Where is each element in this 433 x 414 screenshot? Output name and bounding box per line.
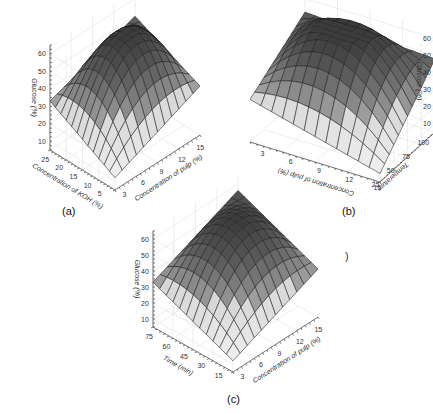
surface-plot-a-canvas: 1020304050603691215510152025Glucose (%)C… (0, 0, 215, 210)
svg-text:40: 40 (141, 268, 149, 275)
svg-text:50: 50 (38, 68, 46, 75)
svg-text:50: 50 (423, 52, 431, 59)
svg-text:30: 30 (423, 86, 431, 93)
svg-text:15: 15 (314, 326, 322, 333)
svg-text:10: 10 (141, 316, 149, 323)
svg-text:75: 75 (402, 153, 410, 160)
svg-text:30: 30 (197, 362, 205, 369)
svg-text:75: 75 (145, 333, 153, 340)
surface-plot-a: 1020304050603691215510152025Glucose (%)C… (0, 0, 215, 210)
surface-plot-b: 1020304050601512963255075100Glucose (%)C… (215, 0, 433, 210)
svg-text:10: 10 (38, 138, 46, 145)
svg-text:20: 20 (423, 103, 431, 110)
svg-text:60: 60 (38, 50, 46, 57)
svg-text:30: 30 (141, 284, 149, 291)
y-axis-label: Time (min) (161, 354, 194, 377)
x-axis-label: Concentration of pulp (%) (133, 153, 204, 203)
surface-plot-b-canvas: 1020304050601512963255075100Glucose (%)C… (215, 0, 433, 210)
svg-text:45: 45 (180, 353, 188, 360)
svg-text:12: 12 (345, 176, 353, 183)
svg-text:15: 15 (215, 372, 223, 379)
svg-text:20: 20 (141, 300, 149, 307)
caption-b: (b) (342, 205, 355, 217)
svg-text:25: 25 (41, 156, 49, 163)
caption-a: (a) (62, 205, 75, 217)
stray-paren: ) (345, 250, 349, 262)
svg-text:12: 12 (296, 338, 304, 345)
surface-plot-c-canvas: 10203040506036912151530456075Glucose (%)… (120, 210, 340, 400)
svg-text:10: 10 (423, 120, 431, 127)
svg-text:20: 20 (38, 120, 46, 127)
z-axis-label: Glucose (%) (133, 260, 141, 299)
surface-plot-c: 10203040506036912151530456075Glucose (%)… (120, 210, 340, 400)
x-axis-label: Concentration of pulp (%) (251, 335, 322, 385)
svg-text:60: 60 (141, 236, 149, 243)
svg-text:12: 12 (178, 156, 186, 163)
caption-c: (c) (227, 393, 240, 405)
svg-text:5: 5 (98, 190, 102, 197)
svg-text:40: 40 (423, 69, 431, 76)
svg-text:60: 60 (163, 343, 171, 350)
svg-text:40: 40 (38, 85, 46, 92)
svg-text:20: 20 (55, 164, 63, 171)
z-axis-label: Glucose (%) (30, 78, 38, 117)
svg-text:6: 6 (259, 361, 263, 368)
svg-text:10: 10 (84, 182, 92, 189)
svg-text:60: 60 (423, 35, 431, 42)
z-axis-label: Glucose (%) (415, 62, 423, 101)
svg-text:6: 6 (141, 179, 145, 186)
svg-text:50: 50 (141, 252, 149, 259)
svg-text:3: 3 (123, 191, 127, 198)
svg-text:15: 15 (70, 173, 78, 180)
surface-mesh (250, 12, 433, 173)
svg-text:9: 9 (160, 168, 164, 175)
svg-text:9: 9 (278, 350, 282, 357)
svg-text:100: 100 (417, 139, 429, 146)
svg-text:3: 3 (241, 373, 245, 380)
surface-mesh (50, 16, 200, 178)
svg-text:30: 30 (38, 103, 46, 110)
svg-text:9: 9 (317, 167, 321, 174)
svg-text:3: 3 (260, 150, 264, 157)
svg-text:6: 6 (289, 158, 293, 165)
svg-text:15: 15 (196, 144, 204, 151)
y-axis-label: Concentration of KOH (%) (31, 162, 104, 211)
